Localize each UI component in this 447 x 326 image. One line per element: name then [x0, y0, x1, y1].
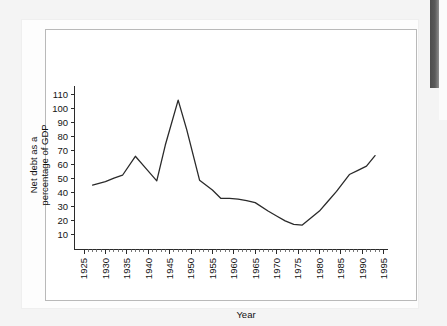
page-background: 102030405060708090100110 192519301935194… [0, 0, 447, 326]
x-axis-tick-label: 1960 [228, 258, 239, 279]
y-axis-tick-label: 30 [57, 201, 68, 212]
y-axis-tick-label: 60 [57, 159, 68, 170]
y-axis-tick-label: 110 [53, 89, 68, 100]
x-axis-tick-label: 1955 [207, 258, 218, 279]
x-axis-tick-label: 1975 [292, 258, 303, 279]
y-axis: 102030405060708090100110 [52, 86, 74, 249]
y-axis-title-line2: percentage of GDP [39, 124, 50, 205]
y-axis-tick-label: 10 [57, 229, 68, 240]
x-axis-tick-label: 1985 [335, 258, 346, 279]
x-axis: 1925193019351940194519501955196019651970… [74, 249, 389, 279]
x-axis-tick-label: 1990 [357, 258, 368, 279]
y-axis-tick-label: 70 [57, 145, 68, 156]
x-axis-tick-label: 1980 [314, 258, 325, 279]
x-axis-tick-label: 1940 [143, 258, 154, 279]
y-axis-tick-label: 50 [57, 173, 68, 184]
x-axis-tick-label: 1945 [164, 258, 175, 279]
y-axis-tick-label: 100 [52, 103, 68, 114]
x-axis-tick-label: 1970 [271, 258, 282, 279]
y-axis-title-line1: Net debt as a [28, 136, 39, 193]
x-axis-tick-label: 1965 [250, 258, 261, 279]
x-axis-tick-label: 1935 [121, 258, 132, 279]
x-axis-tick-label: 1995 [378, 258, 389, 279]
x-axis-tick-label: 1950 [185, 258, 196, 279]
y-axis-tick-label: 40 [57, 187, 68, 198]
x-axis-tick-label: 1930 [100, 258, 111, 279]
x-axis-title: Year [236, 309, 255, 320]
y-axis-tick-label: 90 [57, 117, 68, 128]
data-series-line [93, 100, 375, 225]
y-axis-tick-label: 20 [57, 215, 68, 226]
y-axis-tick-label: 80 [57, 131, 68, 142]
x-axis-tick-label: 1925 [78, 258, 89, 279]
line-chart: 102030405060708090100110 192519301935194… [0, 0, 447, 326]
